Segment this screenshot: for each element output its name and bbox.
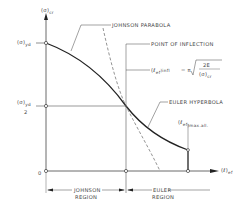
max-axis-point: [186, 169, 189, 172]
johnson-region-label-2: REGION: [75, 194, 97, 200]
inflection-leader: [126, 44, 150, 106]
origin-label: 0: [38, 170, 42, 176]
y-tick-mid-label: (σ)yd: [17, 99, 31, 107]
max-curve-point: [187, 149, 190, 152]
x-axis-label: (ℓ)ef: [221, 167, 233, 175]
max-allowable-label: (ℓef)max.all.: [178, 119, 208, 128]
euler-hyperbola-curve: [126, 106, 188, 150]
y-tick-mid-denominator: 2: [24, 109, 28, 115]
y-axis-label: (σ)cr: [41, 7, 54, 15]
point-of-inflection-label: POINT OF INFLECTION: [151, 41, 214, 47]
arrow-left-icon: [47, 189, 53, 192]
yd-half-point: [44, 104, 47, 107]
johnson-parabola-label: JOHNSON PARABOLA: [111, 22, 171, 29]
svg-text:= π: = π: [181, 67, 191, 73]
euler-region-label-1: EULER: [153, 187, 171, 193]
johnson-parabola-curve: [46, 43, 126, 106]
svg-text:2E: 2E: [203, 62, 210, 68]
y-axis-arrow-icon: [44, 13, 48, 20]
svg-text:(σ)cr: (σ)cr: [199, 71, 212, 79]
svg-text:(ℓef)infl: (ℓef)infl: [151, 67, 170, 75]
inflection-axis-point: [124, 169, 127, 172]
johnson-region-label-1: JOHNSON: [73, 187, 101, 194]
johnson-euler-diagram: (σ)cr (σ)yd (σ)yd 2 0 (ℓ)ef JOHNSON PARA…: [0, 0, 241, 210]
euler-hyperbola-label: EULER HYPERBOLA: [169, 99, 223, 105]
euler-dashed-extension: [103, 28, 160, 171]
inflection-formula: (ℓef)infl = π 2E (σ)cr: [151, 60, 222, 79]
x-axis-arrow-icon: [210, 169, 219, 173]
y-tick-top-label: (σ)yd: [17, 39, 31, 47]
arrow-right-icon: [119, 189, 125, 192]
origin-point: [44, 169, 47, 172]
arrow-left-icon: [127, 189, 133, 192]
yd-point: [44, 41, 47, 44]
euler-leader: [148, 102, 168, 127]
euler-region-label-2: REGION: [152, 194, 174, 200]
